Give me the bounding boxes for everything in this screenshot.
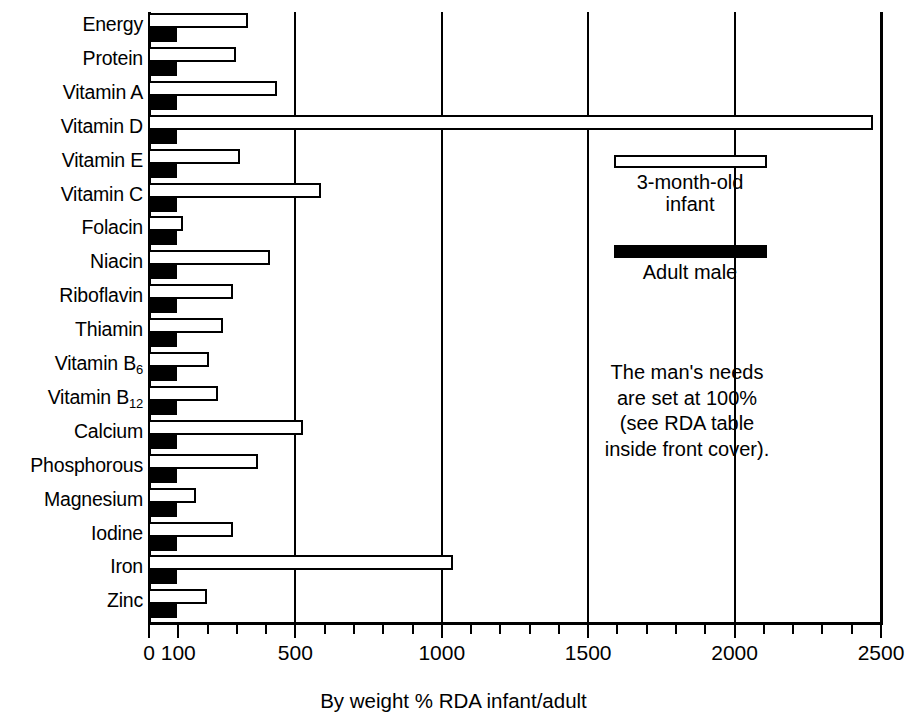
x-tick-label-2000: 2000 bbox=[711, 642, 758, 663]
category-label-vitamin-d: Vitamin D bbox=[3, 117, 143, 137]
legend-entry-adult: Adult male bbox=[600, 245, 780, 284]
x-tick-200 bbox=[207, 625, 209, 634]
x-axis-line bbox=[148, 622, 883, 625]
category-label-protein: Protein bbox=[3, 49, 143, 69]
bar-adult-vitamin-a bbox=[148, 96, 177, 110]
x-tick-label-500: 500 bbox=[278, 642, 313, 663]
x-tick-700 bbox=[353, 625, 355, 634]
x-tick-2000 bbox=[734, 625, 736, 638]
x-tick-1700 bbox=[646, 625, 648, 634]
category-label-magnesium: Magnesium bbox=[3, 490, 143, 510]
x-tick-1300 bbox=[529, 625, 531, 634]
x-tick-1900 bbox=[704, 625, 706, 634]
x-tick-1600 bbox=[616, 625, 618, 634]
bar-infant-calcium bbox=[148, 420, 303, 435]
bar-infant-vitamin-b6 bbox=[148, 352, 209, 367]
bar-adult-magnesium bbox=[148, 503, 177, 517]
category-label-column: EnergyProteinVitamin AVitamin DVitamin E… bbox=[0, 0, 143, 726]
x-tick-2500 bbox=[880, 625, 882, 638]
x-tick-label-0: 0 bbox=[143, 642, 155, 663]
category-label-vitamin-a: Vitamin A bbox=[3, 83, 143, 103]
bar-infant-vitamin-a bbox=[148, 81, 277, 96]
bar-adult-zinc bbox=[148, 604, 177, 618]
gridline-1000 bbox=[441, 12, 443, 622]
x-axis-title: By weight % RDA infant/adult bbox=[0, 690, 907, 711]
x-tick-1500 bbox=[587, 625, 589, 638]
gridline-2000 bbox=[734, 12, 736, 622]
bar-infant-magnesium bbox=[148, 488, 196, 503]
legend-swatch-adult bbox=[614, 245, 767, 258]
bar-infant-iodine bbox=[148, 522, 233, 537]
category-label-niacin: Niacin bbox=[3, 252, 143, 272]
x-tick-800 bbox=[382, 625, 384, 634]
legend-entry-infant: 3-month-old infant bbox=[600, 155, 780, 216]
bar-adult-vitamin-b6 bbox=[148, 367, 177, 381]
right-axis-spine bbox=[880, 12, 883, 625]
bar-infant-protein bbox=[148, 47, 236, 62]
bar-adult-vitamin-d bbox=[148, 130, 177, 144]
x-tick-100 bbox=[177, 625, 179, 638]
legend-label-infant-line1: 3-month-old bbox=[600, 170, 780, 194]
x-tick-600 bbox=[324, 625, 326, 634]
bar-adult-energy bbox=[148, 28, 177, 42]
x-tick-1200 bbox=[499, 625, 501, 634]
category-label-folacin: Folacin bbox=[3, 218, 143, 238]
bar-infant-iron bbox=[148, 555, 453, 570]
category-label-vitamin-b12: Vitamin B12 bbox=[3, 388, 143, 408]
legend-label-adult-line1: Adult male bbox=[600, 260, 780, 284]
category-label-thiamin: Thiamin bbox=[3, 320, 143, 340]
chart-note-line4: inside front cover). bbox=[562, 437, 812, 463]
x-tick-label-1000: 1000 bbox=[418, 642, 465, 663]
x-tick-2400 bbox=[851, 625, 853, 634]
x-tick-1400 bbox=[558, 625, 560, 634]
x-tick-900 bbox=[412, 625, 414, 634]
gridline-500 bbox=[294, 12, 296, 622]
bar-adult-iodine bbox=[148, 537, 177, 551]
bar-infant-vitamin-e bbox=[148, 149, 240, 164]
bar-infant-folacin bbox=[148, 216, 183, 231]
bar-infant-vitamin-c bbox=[148, 183, 321, 198]
category-label-vitamin-c: Vitamin C bbox=[3, 185, 143, 205]
bar-adult-phosphorous bbox=[148, 469, 177, 483]
x-tick-label-1500: 1500 bbox=[565, 642, 612, 663]
bar-infant-zinc bbox=[148, 589, 207, 604]
chart-note-line1: The man's needs bbox=[562, 360, 812, 386]
category-label-iron: Iron bbox=[3, 557, 143, 577]
bar-adult-calcium bbox=[148, 435, 177, 449]
bar-adult-niacin bbox=[148, 265, 177, 279]
category-label-vitamin-e: Vitamin E bbox=[3, 151, 143, 171]
bar-infant-energy bbox=[148, 13, 248, 28]
x-tick-1800 bbox=[675, 625, 677, 634]
category-label-vitamin-b6: Vitamin B6 bbox=[3, 354, 143, 374]
category-label-zinc: Zinc bbox=[3, 591, 143, 611]
bar-adult-riboflavin bbox=[148, 299, 177, 313]
bar-infant-vitamin-b12 bbox=[148, 386, 218, 401]
bar-infant-niacin bbox=[148, 250, 270, 265]
bar-adult-folacin bbox=[148, 231, 177, 245]
bar-adult-thiamin bbox=[148, 333, 177, 347]
bar-infant-phosphorous bbox=[148, 454, 258, 469]
bar-adult-iron bbox=[148, 570, 177, 584]
category-label-iodine: Iodine bbox=[3, 524, 143, 544]
bar-adult-vitamin-c bbox=[148, 198, 177, 212]
bar-infant-riboflavin bbox=[148, 284, 233, 299]
gridline-1500 bbox=[587, 12, 589, 622]
chart-note: The man's needs are set at 100% (see RDA… bbox=[562, 360, 812, 462]
category-label-phosphorous: Phosphorous bbox=[3, 456, 143, 476]
x-tick-2100 bbox=[763, 625, 765, 634]
category-label-calcium: Calcium bbox=[3, 422, 143, 442]
bar-adult-vitamin-e bbox=[148, 164, 177, 178]
x-tick-0 bbox=[148, 625, 150, 638]
category-label-riboflavin: Riboflavin bbox=[3, 286, 143, 306]
x-tick-1100 bbox=[470, 625, 472, 634]
bar-infant-thiamin bbox=[148, 318, 223, 333]
x-tick-label-2500: 2500 bbox=[858, 642, 905, 663]
x-tick-label-100: 100 bbox=[161, 642, 196, 663]
legend-label-infant-line2: infant bbox=[600, 192, 780, 216]
x-tick-400 bbox=[265, 625, 267, 634]
x-tick-500 bbox=[294, 625, 296, 638]
chart-note-line2: are set at 100% bbox=[562, 386, 812, 412]
legend-swatch-infant bbox=[614, 155, 767, 168]
bar-adult-vitamin-b12 bbox=[148, 401, 177, 415]
bar-infant-vitamin-d bbox=[148, 115, 873, 130]
